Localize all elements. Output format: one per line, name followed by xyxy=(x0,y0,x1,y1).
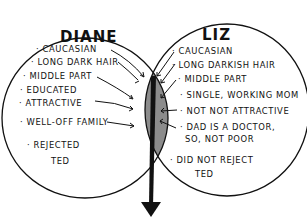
liz-item: · NOT NOT ATTRACTIVE xyxy=(180,106,289,116)
liz-item: · DID NOT REJECT xyxy=(170,155,253,165)
liz-item: TED xyxy=(195,169,214,179)
diane-item: · CAUCASIAN xyxy=(36,44,97,54)
liz-item: · LONG DARKISH HAIR xyxy=(172,60,276,70)
diane-item: · EDUCATED xyxy=(20,85,77,95)
diane-item: · LONG DARK HAIR xyxy=(31,57,119,67)
liz-item: · SINGLE, WORKING MOM xyxy=(180,90,299,100)
diane-item: · ATTRACTIVE xyxy=(19,98,82,108)
diane-item: TED xyxy=(51,156,70,166)
liz-item: · DAD IS A DOCTOR, xyxy=(180,122,275,132)
liz-item: · CAUCASIAN xyxy=(172,46,233,56)
liz-item: · MIDDLE PART xyxy=(178,74,247,84)
diane-item: · MIDDLE PART xyxy=(23,71,92,81)
liz-item: SO, NOT POOR xyxy=(185,134,254,144)
diane-item: · WELL-OFF FAMILY xyxy=(20,117,109,127)
liz-title: LIZ xyxy=(202,26,231,44)
diane-item: · REJECTED xyxy=(27,140,80,150)
